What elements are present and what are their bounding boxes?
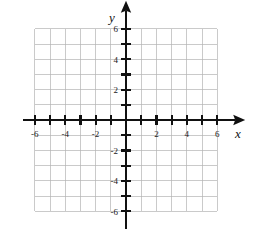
x-tick-label: -6 <box>31 129 39 139</box>
x-tick-label: 6 <box>215 129 220 139</box>
x-tick-label: -2 <box>92 129 100 139</box>
y-tick-label: -6 <box>111 207 119 217</box>
coordinate-plane-figure: -6-4-2246642-2-4-6 y x <box>0 0 255 232</box>
y-tick-label: 2 <box>114 85 119 95</box>
y-tick-label: -2 <box>111 146 119 156</box>
x-tick-label: -4 <box>61 129 69 139</box>
y-tick-label: 6 <box>114 24 119 34</box>
y-tick-label: -4 <box>111 176 119 186</box>
coordinate-grid-svg: -6-4-2246642-2-4-6 y x <box>0 0 255 232</box>
y-axis-label: y <box>107 10 115 25</box>
x-tick-label: 2 <box>154 129 159 139</box>
x-tick-label: 4 <box>185 129 190 139</box>
x-axis-label: x <box>234 126 241 141</box>
y-tick-label: 4 <box>114 55 119 65</box>
